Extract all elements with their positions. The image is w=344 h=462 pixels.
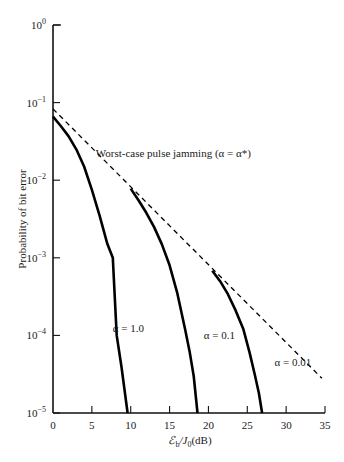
x-tick-label: 15	[164, 419, 176, 431]
annotation-alpha-label: α = 1.0	[113, 322, 145, 334]
series-curve-0-1	[131, 189, 198, 413]
x-tick-label: 20	[203, 419, 215, 431]
x-tick-label: 30	[281, 419, 293, 431]
y-tick-label: 10−3	[26, 250, 46, 264]
y-tick-label: 10−5	[26, 405, 46, 419]
x-tick-label: 5	[89, 419, 95, 431]
x-axis-title: ℰb/J0(dB)	[168, 434, 211, 449]
y-tick-label: 10−4	[26, 327, 46, 341]
y-tick-label: 10−1	[26, 95, 46, 109]
y-tick-label: 100	[31, 17, 46, 31]
x-axis-title-tail: (dB)	[191, 434, 212, 447]
x-tick-label: 10	[125, 419, 137, 431]
x-tick-label: 35	[320, 419, 332, 431]
chart: 10010−110−210−310−410−505101520253035 Wo…	[0, 0, 344, 462]
series-curve-1-0	[53, 117, 128, 413]
annotation-worst-case: Worst-case pulse jamming (α = α*)	[96, 147, 252, 160]
annotation-alpha-label: α = 0.1	[204, 329, 235, 341]
y-tick-label: 10−2	[26, 172, 46, 186]
series-curve-0-01	[212, 271, 262, 413]
y-axis-title: Probability of bit error	[16, 169, 28, 269]
ticks: 10010−110−210−310−410−505101520253035	[26, 17, 331, 431]
x-tick-label: 0	[50, 419, 56, 431]
annotation-alpha-label: α = 0.01	[274, 356, 311, 368]
x-tick-label: 25	[242, 419, 254, 431]
